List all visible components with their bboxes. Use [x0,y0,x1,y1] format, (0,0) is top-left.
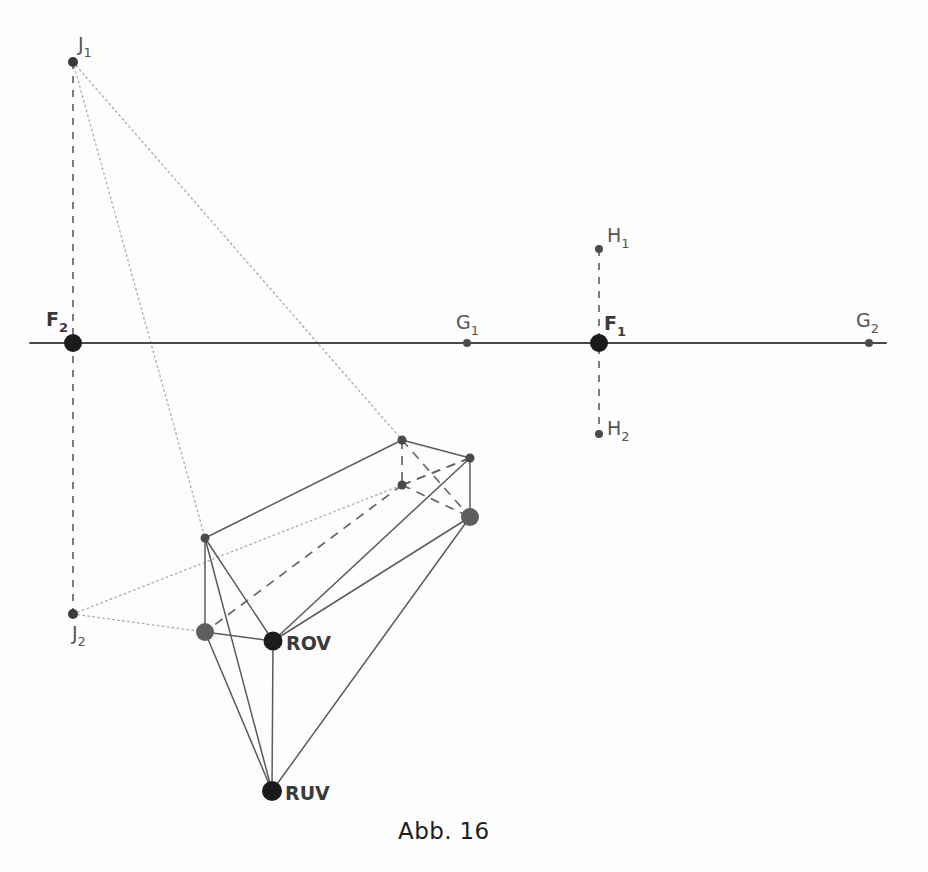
construction-ray-J2-ROV_left [73,614,205,632]
solid-edge-ROV-E [273,517,470,641]
figure-caption: Abb. 16 [398,818,490,844]
solid-edge-ROV-RUV [272,641,273,791]
solid-edge-ROV_left-RUV [205,632,272,791]
point-G1 [463,339,471,347]
label-F2: F2 [46,308,68,335]
solid-edge-A-RUV [205,538,272,791]
solid-edge-RUV-E [272,517,470,791]
point-label-layer: F2F1G1G2H1H2J1J2ROVRUV [46,33,879,804]
label-H2: H2 [607,417,630,444]
point-layer [64,57,873,801]
label-H1: H1 [607,224,630,251]
point-F2 [64,334,82,352]
construction-ray-J1-A [73,62,205,538]
point-E [461,508,479,526]
construction-ray-J2-D [73,485,402,614]
point-J2 [68,609,78,619]
point-ROV [264,632,283,651]
solid-edge-A-B [205,440,402,538]
solid-edge-B-C [402,440,470,458]
point-H1 [595,245,603,253]
dotted-ray-layer [73,62,402,632]
hidden-edge-C-D [402,458,470,485]
point-RUV [262,781,282,801]
hidden-edge-D-ROV_left [205,485,402,632]
point-A [201,534,210,543]
label-ROV: ROV [286,632,331,654]
point-C [466,454,475,463]
construction-ray-J1-B [73,62,402,440]
solid-edge-ROV_left-ROV [205,632,273,641]
point-G2 [865,339,873,347]
point-D [398,481,407,490]
label-F1: F1 [604,312,626,339]
point-J1 [68,57,78,67]
point-H2 [595,430,603,438]
label-J2: J2 [71,622,86,649]
solid-edge-ROV-C [273,458,470,641]
point-F1 [590,334,608,352]
label-J1: J1 [77,33,92,60]
solid-edge-A-ROV [205,538,273,641]
vertical-dashed-layer [73,62,599,614]
figure-root: F2F1G1G2H1H2J1J2ROVRUV Abb. 16 [0,0,928,872]
point-B [398,436,407,445]
solid-edge-layer [205,440,470,791]
point-ROV_left [196,623,214,641]
label-RUV: RUV [285,782,330,804]
hidden-edge-layer [205,440,470,632]
label-G1: G1 [456,311,479,338]
label-G2: G2 [856,309,879,336]
hidden-edge-B-E [402,440,470,517]
perspective-construction-diagram: F2F1G1G2H1H2J1J2ROVRUV [0,0,928,872]
